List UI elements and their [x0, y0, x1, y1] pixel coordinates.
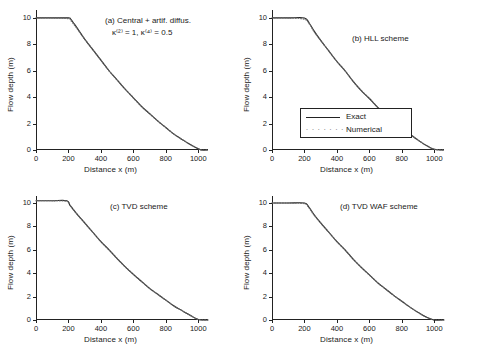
xtick-mark-c-3 [133, 320, 134, 323]
x-axis-title-d: Distance x (m) [320, 335, 373, 344]
xtick-label-b-1: 200 [290, 154, 318, 163]
ytick-mark-d-2 [269, 273, 272, 274]
xtick-label-a-3: 600 [119, 154, 147, 163]
xtick-label-d-4: 800 [388, 324, 416, 333]
ytick-label-c-5: 10 [12, 198, 31, 207]
ytick-label-c-1: 2 [12, 292, 31, 301]
y-axis-title-c: Flow depth (m) [6, 235, 15, 290]
xtick-mark-b-2 [337, 150, 338, 153]
xtick-label-d-5: 1000 [420, 324, 448, 333]
legend-label-exact: Exact [346, 112, 366, 121]
figure-canvas: 020040060080010000246810Distance x (m)Fl… [0, 0, 479, 356]
ytick-mark-c-5 [33, 203, 36, 204]
ytick-mark-a-2 [33, 97, 36, 98]
legend-label-numerical: Numerical [346, 125, 382, 134]
ytick-mark-d-3 [269, 250, 272, 251]
xtick-mark-b-4 [402, 150, 403, 153]
ytick-mark-b-5 [269, 18, 272, 19]
ytick-mark-d-1 [269, 297, 272, 298]
ytick-mark-a-0 [33, 150, 36, 151]
xtick-label-c-4: 800 [152, 324, 180, 333]
ytick-mark-b-3 [269, 71, 272, 72]
ytick-label-a-0: 0 [12, 145, 31, 154]
ytick-label-a-5: 10 [12, 13, 31, 22]
ytick-label-b-1: 2 [248, 119, 267, 128]
xtick-mark-a-2 [101, 150, 102, 153]
ytick-label-d-4: 8 [248, 221, 267, 230]
xtick-label-c-2: 400 [87, 324, 115, 333]
xtick-mark-d-5 [434, 320, 435, 323]
ytick-mark-a-3 [33, 71, 36, 72]
xtick-label-d-2: 400 [323, 324, 351, 333]
legend-swatch-exact [306, 117, 340, 118]
ytick-label-a-4: 8 [12, 39, 31, 48]
xtick-mark-c-0 [36, 320, 37, 323]
xtick-mark-b-3 [369, 150, 370, 153]
xtick-label-b-5: 1000 [420, 154, 448, 163]
ytick-label-c-0: 0 [12, 315, 31, 324]
ytick-mark-a-5 [33, 18, 36, 19]
xtick-label-d-3: 600 [355, 324, 383, 333]
xtick-mark-d-0 [272, 320, 273, 323]
xtick-label-b-0: 0 [258, 154, 286, 163]
y-axis-title-d: Flow depth (m) [242, 235, 251, 290]
xtick-mark-c-2 [101, 320, 102, 323]
xtick-mark-a-4 [166, 150, 167, 153]
xtick-mark-c-5 [198, 320, 199, 323]
ytick-mark-b-2 [269, 97, 272, 98]
plot-area-c [36, 196, 208, 320]
xtick-label-c-1: 200 [54, 324, 82, 333]
xtick-label-b-2: 400 [323, 154, 351, 163]
panel-sublabel-a: κ⁽²⁾ = 1, κ⁽⁴⁾ = 0.5 [112, 28, 172, 37]
xtick-mark-b-1 [304, 150, 305, 153]
xtick-mark-a-3 [133, 150, 134, 153]
y-axis-title-b: Flow depth (m) [242, 57, 251, 112]
ytick-mark-d-5 [269, 203, 272, 204]
xtick-label-c-5: 1000 [184, 324, 212, 333]
xtick-label-c-3: 600 [119, 324, 147, 333]
x-axis-title-b: Distance x (m) [320, 165, 373, 174]
panel-label-d: (d) TVD WAF scheme [340, 202, 418, 211]
plot-area-d [272, 196, 444, 320]
xtick-mark-d-2 [337, 320, 338, 323]
ytick-label-b-0: 0 [248, 145, 267, 154]
xtick-mark-b-0 [272, 150, 273, 153]
ytick-mark-d-0 [269, 320, 272, 321]
legend-swatch-numerical: . . . . . . . . [306, 124, 350, 131]
panel-label-a: (a) Central + artif. diffus. [105, 16, 191, 25]
xtick-mark-a-1 [68, 150, 69, 153]
xtick-mark-b-5 [434, 150, 435, 153]
ytick-label-b-4: 8 [248, 39, 267, 48]
ytick-mark-b-4 [269, 44, 272, 45]
xtick-label-a-1: 200 [54, 154, 82, 163]
xtick-label-a-2: 400 [87, 154, 115, 163]
xtick-label-d-0: 0 [258, 324, 286, 333]
x-axis-title-a: Distance x (m) [84, 165, 137, 174]
xtick-mark-d-3 [369, 320, 370, 323]
ytick-mark-a-4 [33, 44, 36, 45]
ytick-label-d-5: 10 [248, 198, 267, 207]
ytick-label-d-0: 0 [248, 315, 267, 324]
ytick-label-a-1: 2 [12, 119, 31, 128]
xtick-mark-c-4 [166, 320, 167, 323]
panel-label-b: (b) HLL scheme [352, 34, 409, 43]
panel-label-c: (c) TVD scheme [110, 202, 168, 211]
ytick-mark-c-2 [33, 273, 36, 274]
ytick-label-d-1: 2 [248, 292, 267, 301]
xtick-label-b-4: 800 [388, 154, 416, 163]
ytick-mark-c-3 [33, 250, 36, 251]
xtick-label-a-5: 1000 [184, 154, 212, 163]
xtick-label-a-0: 0 [22, 154, 50, 163]
ytick-mark-c-4 [33, 226, 36, 227]
ytick-label-b-5: 10 [248, 13, 267, 22]
xtick-mark-c-1 [68, 320, 69, 323]
xtick-label-c-0: 0 [22, 324, 50, 333]
xtick-mark-a-5 [198, 150, 199, 153]
xtick-label-b-3: 600 [355, 154, 383, 163]
ytick-mark-a-1 [33, 124, 36, 125]
xtick-mark-d-4 [402, 320, 403, 323]
ytick-mark-d-4 [269, 226, 272, 227]
xtick-mark-a-0 [36, 150, 37, 153]
xtick-label-a-4: 800 [152, 154, 180, 163]
x-axis-title-c: Distance x (m) [84, 335, 137, 344]
